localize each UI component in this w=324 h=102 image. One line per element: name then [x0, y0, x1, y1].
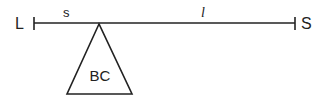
segment-l-label: l [201, 5, 205, 20]
fulcrum-label: BC [90, 67, 111, 84]
left-end-label: L [15, 15, 24, 32]
lever-diagram: L S s l BC [0, 0, 324, 102]
right-end-label: S [301, 15, 312, 32]
segment-s-label: s [63, 5, 70, 20]
